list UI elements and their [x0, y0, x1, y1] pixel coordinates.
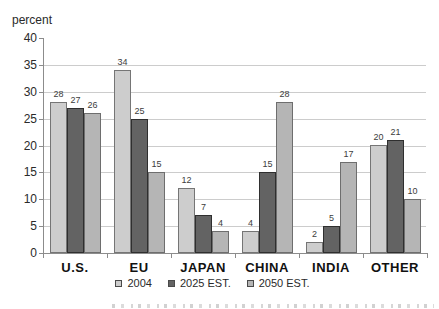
gridline [44, 146, 426, 147]
y-axis-tick-label: 0 [9, 246, 37, 260]
y-axis-tick [39, 146, 43, 147]
bar-value-label: 26 [79, 100, 106, 110]
bar [148, 172, 165, 253]
legend-marker [168, 280, 175, 287]
x-category-label: JAPAN [171, 260, 235, 275]
bar-value-label: 10 [399, 186, 426, 196]
bar [178, 188, 195, 253]
bar [114, 70, 131, 253]
x-category-label: U.S. [43, 260, 107, 275]
x-category-label: OTHER [363, 260, 427, 275]
x-axis-tick [107, 254, 108, 258]
bar-value-label: 15 [143, 159, 170, 169]
x-category-label: CHINA [235, 260, 299, 275]
y-axis-tick-label: 40 [9, 31, 37, 45]
bar-value-label: 34 [109, 57, 136, 67]
x-axis-tick [171, 254, 172, 258]
gridline [44, 92, 426, 93]
x-axis-tick [299, 254, 300, 258]
y-axis-tick-label: 30 [9, 85, 37, 99]
y-axis-tick [39, 226, 43, 227]
bar-chart-figure: percent 0510152025303540282726U.S.342515… [0, 0, 439, 309]
bar-value-label: 17 [335, 149, 362, 159]
x-category-label: INDIA [299, 260, 363, 275]
x-axis-tick [43, 254, 44, 258]
bar [387, 140, 404, 253]
bar-value-label: 21 [382, 127, 409, 137]
bar [67, 108, 84, 253]
legend-marker [247, 280, 254, 287]
gridline [44, 172, 426, 173]
bar [259, 172, 276, 253]
bar [340, 162, 357, 253]
bar [276, 102, 293, 253]
y-axis-tick [39, 92, 43, 93]
bar [370, 145, 387, 253]
bar [84, 113, 101, 253]
cropped-caption-fragment [112, 304, 434, 308]
bar-value-label: 25 [126, 106, 153, 116]
plot-area: 0510152025303540282726U.S.342515EU1274JA… [43, 38, 427, 253]
x-axis-tick [363, 254, 364, 258]
bar-value-label: 12 [173, 175, 200, 185]
y-axis-tick [39, 199, 43, 200]
legend-label: 2050 EST. [259, 277, 310, 289]
gridline [44, 226, 426, 227]
legend-item: 2050 EST. [247, 277, 310, 289]
legend-item: 2004 [115, 277, 151, 289]
x-category-label: EU [107, 260, 171, 275]
gridline [44, 119, 426, 120]
y-axis-line [43, 38, 44, 253]
bar-value-label: 7 [190, 202, 217, 212]
bar [131, 119, 148, 253]
legend-marker [115, 280, 122, 287]
y-axis-tick [39, 65, 43, 66]
legend-item: 2025 EST. [168, 277, 231, 289]
bar [404, 199, 421, 253]
bar [212, 231, 229, 253]
y-axis-tick-label: 10 [9, 192, 37, 206]
y-axis-tick-label: 5 [9, 219, 37, 233]
bar [242, 231, 259, 253]
bar [323, 226, 340, 253]
legend-label: 2025 EST. [180, 277, 231, 289]
bar-value-label: 28 [271, 89, 298, 99]
gridline [44, 199, 426, 200]
bar [50, 102, 67, 253]
bar [306, 242, 323, 253]
y-axis-tick-label: 15 [9, 165, 37, 179]
bar-value-label: 4 [207, 218, 234, 228]
legend-label: 2004 [127, 277, 151, 289]
y-axis-tick [39, 172, 43, 173]
x-axis-tick [427, 254, 428, 258]
y-axis-tick [39, 38, 43, 39]
y-axis-tick-label: 20 [9, 139, 37, 153]
y-axis-tick-label: 25 [9, 112, 37, 126]
gridline [44, 65, 426, 66]
y-axis-tick-label: 35 [9, 58, 37, 72]
y-axis-tick [39, 119, 43, 120]
y-axis-unit-label: percent [12, 13, 52, 27]
legend: 20042025 EST.2050 EST. [0, 276, 425, 290]
x-axis-tick [235, 254, 236, 258]
